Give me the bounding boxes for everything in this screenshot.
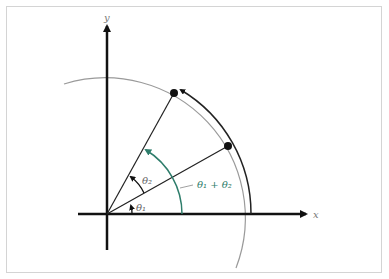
theta2-label: θ₂ [142,175,152,186]
outer-rotation-arc [181,90,251,214]
sum-label-leader [180,185,193,188]
point-rotated-sum [170,89,178,97]
unit-circle-arc [64,78,245,268]
theta1-label: θ₁ [136,202,146,213]
rotation-diagram: y x θ₁ θ₂ θ₁ + θ₂ [0,0,389,279]
sum-angle-label: θ₁ + θ₂ [197,179,232,190]
y-axis-label: y [103,12,110,23]
point-rotated-theta1 [224,142,232,150]
x-axis-label: x [313,209,319,220]
